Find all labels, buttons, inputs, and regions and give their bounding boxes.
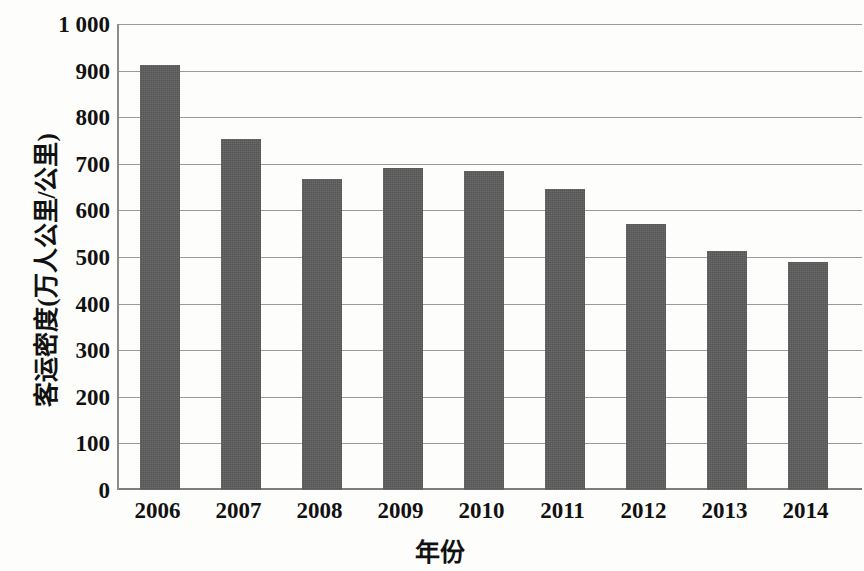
bar-slot bbox=[281, 24, 362, 490]
bar bbox=[545, 189, 585, 490]
bar-slot bbox=[362, 24, 443, 490]
x-axis-tick-labels: 200620072008200920102011201220132014 bbox=[117, 496, 862, 530]
y-tick-label: 800 bbox=[26, 106, 110, 129]
bars bbox=[119, 24, 864, 490]
bar bbox=[302, 179, 342, 490]
y-tick-label: 900 bbox=[26, 59, 110, 82]
y-tick-label: 200 bbox=[26, 385, 110, 408]
y-tick-label: 300 bbox=[26, 339, 110, 362]
bar bbox=[788, 262, 828, 490]
y-tick-label: 1 000 bbox=[26, 13, 110, 36]
bar bbox=[464, 171, 504, 490]
bar bbox=[707, 251, 747, 490]
y-tick-label: 100 bbox=[26, 432, 110, 455]
bar bbox=[140, 65, 180, 490]
y-axis-tick-labels: 01002003004005006007008009001 000 bbox=[26, 24, 110, 490]
y-tick-label: 700 bbox=[26, 152, 110, 175]
bar bbox=[221, 139, 261, 490]
bar-slot bbox=[443, 24, 524, 490]
y-tick-label: 500 bbox=[26, 246, 110, 269]
x-axis-title: 年份 bbox=[340, 538, 540, 568]
bar-slot bbox=[200, 24, 281, 490]
y-tick-label: 400 bbox=[26, 292, 110, 315]
bar-slot bbox=[686, 24, 767, 490]
bar-slot bbox=[605, 24, 686, 490]
bar bbox=[626, 224, 666, 490]
bar-slot bbox=[767, 24, 848, 490]
y-tick-label: 600 bbox=[26, 199, 110, 222]
y-tick-label: 0 bbox=[26, 479, 110, 502]
bar bbox=[383, 168, 423, 490]
plot-area bbox=[117, 24, 862, 490]
x-tick-label: 2014 bbox=[751, 496, 861, 526]
bar-slot bbox=[524, 24, 605, 490]
bar-slot bbox=[119, 24, 200, 490]
